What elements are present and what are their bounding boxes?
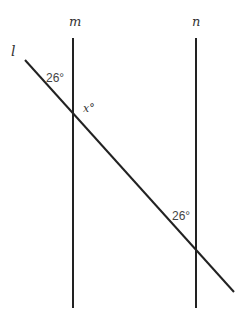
label-l: l bbox=[11, 43, 15, 59]
label-n: n bbox=[192, 14, 200, 29]
diagram-canvas: m n l 26° x° 26° bbox=[0, 0, 247, 321]
angle-26-bottom: 26° bbox=[172, 209, 190, 223]
label-m: m bbox=[69, 14, 81, 29]
angle-26-top: 26° bbox=[46, 71, 64, 85]
diagram: m n l 26° x° 26° bbox=[0, 0, 247, 321]
line-l bbox=[25, 60, 234, 292]
angle-x: x° bbox=[83, 102, 95, 115]
